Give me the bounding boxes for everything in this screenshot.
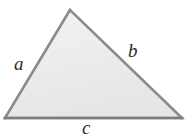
triangle-shape: [5, 10, 182, 118]
side-label-c: c: [82, 118, 90, 136]
side-label-a: a: [14, 54, 24, 73]
triangle-graphic: [0, 0, 194, 136]
side-label-b: b: [128, 41, 138, 60]
triangle-figure: a b c: [0, 0, 194, 136]
